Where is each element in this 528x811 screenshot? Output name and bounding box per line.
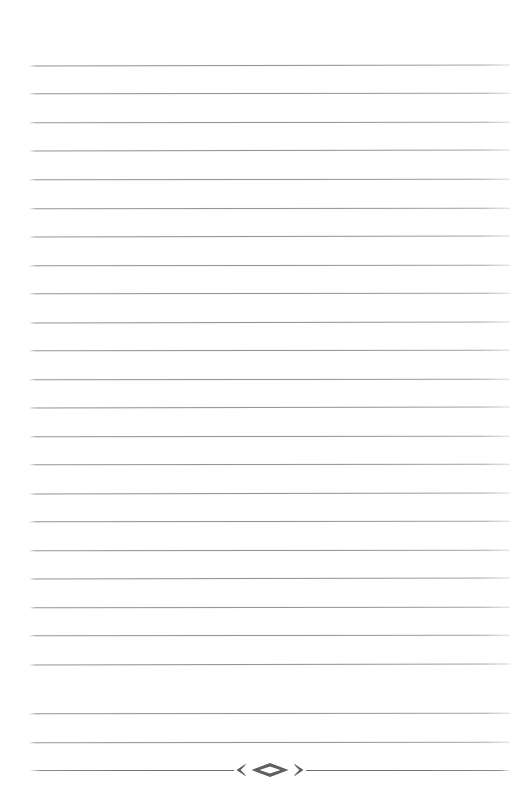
ruled-line	[30, 378, 510, 381]
ruled-line-stroke	[30, 635, 510, 636]
ornamental-divider	[30, 759, 510, 781]
ruled-line	[30, 741, 510, 744]
ruled-line	[30, 520, 510, 524]
ruled-line-stroke	[30, 93, 510, 95]
ruled-line-halo	[30, 264, 510, 268]
ruled-line-halo	[30, 634, 510, 637]
diamond-ornament-icon	[250, 761, 290, 779]
ruled-line-halo	[30, 378, 510, 381]
ruled-line	[30, 606, 510, 610]
right-angle-bracket-icon	[293, 761, 304, 779]
ruled-line-stroke	[30, 607, 510, 609]
notebook-page	[0, 0, 528, 811]
ruled-line	[30, 349, 510, 353]
ruled-line	[30, 712, 510, 716]
ruled-line	[30, 149, 510, 153]
ruled-line-stroke	[30, 65, 510, 67]
ruled-line-stroke	[30, 521, 510, 523]
ruled-line	[30, 292, 510, 295]
ruled-line-halo	[30, 64, 510, 68]
ruled-line	[30, 577, 510, 581]
ruled-line	[30, 264, 510, 268]
ruled-line-stroke	[30, 265, 510, 267]
ruled-line-stroke	[30, 122, 510, 123]
ruled-line-halo	[30, 663, 510, 667]
ruled-line	[30, 634, 510, 637]
ruled-line	[30, 235, 510, 239]
ruled-line-stroke	[30, 322, 510, 324]
ruled-line	[30, 207, 510, 210]
ruled-line-halo	[30, 435, 510, 439]
ruled-line-stroke	[30, 578, 510, 580]
ruled-line-stroke	[30, 742, 510, 743]
ruled-line-halo	[30, 178, 510, 182]
ruled-line-halo	[30, 520, 510, 524]
ruled-line-halo	[30, 92, 510, 96]
ruled-line-stroke	[30, 293, 510, 294]
ruled-line-stroke	[30, 208, 510, 209]
ruled-line	[30, 663, 510, 667]
ruled-line-halo	[30, 606, 510, 610]
ruled-line-stroke	[30, 150, 510, 152]
ruled-line-stroke	[30, 179, 510, 181]
ruled-line-stroke	[30, 379, 510, 380]
ruled-line	[30, 463, 510, 466]
ruled-line	[30, 178, 510, 182]
ruled-line-halo	[30, 463, 510, 466]
ruled-line	[30, 321, 510, 325]
ruled-line-stroke	[30, 407, 510, 409]
ruled-line	[30, 435, 510, 439]
ruled-line	[30, 406, 510, 410]
ruled-line-halo	[30, 492, 510, 496]
ruled-line-stroke	[30, 713, 510, 715]
ruled-line	[30, 549, 510, 552]
divider-center-ornament	[234, 759, 306, 781]
ruled-line-stroke	[30, 464, 510, 465]
ruled-line-stroke	[30, 664, 510, 666]
ruled-line-halo	[30, 549, 510, 552]
ruled-line	[30, 492, 510, 496]
ruled-line-halo	[30, 712, 510, 716]
ruled-line-halo	[30, 349, 510, 353]
ruled-line-stroke	[30, 493, 510, 495]
ruled-line-halo	[30, 741, 510, 744]
ruled-line-halo	[30, 292, 510, 295]
ruled-line-stroke	[30, 550, 510, 551]
ruled-line-halo	[30, 149, 510, 153]
ruled-line-stroke	[30, 236, 510, 238]
ruled-line	[30, 64, 510, 68]
ruled-line-stroke	[30, 350, 510, 352]
ruled-line-halo	[30, 235, 510, 239]
ruled-line	[30, 92, 510, 96]
ruled-line-halo	[30, 577, 510, 581]
ruled-line	[30, 121, 510, 124]
ruled-line-halo	[30, 406, 510, 410]
divider-rule-right	[306, 770, 510, 771]
ruled-line-stroke	[30, 436, 510, 438]
left-angle-bracket-icon	[236, 761, 247, 779]
ruled-line-halo	[30, 121, 510, 124]
ruled-line-halo	[30, 207, 510, 210]
ruled-line-halo	[30, 321, 510, 325]
divider-rule-left	[30, 770, 234, 771]
